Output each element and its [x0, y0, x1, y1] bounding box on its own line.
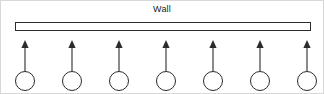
force-arrow-icon [296, 39, 318, 73]
mass-arrow-unit [202, 39, 224, 93]
mass-arrow-units [1, 1, 324, 94]
force-arrow-icon [155, 39, 177, 73]
force-arrow-icon [108, 39, 130, 73]
mass-circle [250, 71, 270, 91]
mass-arrow-unit [249, 39, 271, 93]
mass-circle [62, 71, 82, 91]
mass-circle [156, 71, 176, 91]
force-arrow-icon [61, 39, 83, 73]
mass-circle [109, 71, 129, 91]
force-arrow-icon [202, 39, 224, 73]
mass-circle [203, 71, 223, 91]
mass-circle [15, 71, 35, 91]
mass-arrow-unit [14, 39, 36, 93]
mass-arrow-unit [155, 39, 177, 93]
force-arrow-icon [249, 39, 271, 73]
mass-arrow-unit [61, 39, 83, 93]
force-arrow-icon [14, 39, 36, 73]
mass-arrow-unit [108, 39, 130, 93]
mass-circle [297, 71, 317, 91]
physics-diagram: Wall [0, 0, 324, 94]
mass-arrow-unit [296, 39, 318, 93]
